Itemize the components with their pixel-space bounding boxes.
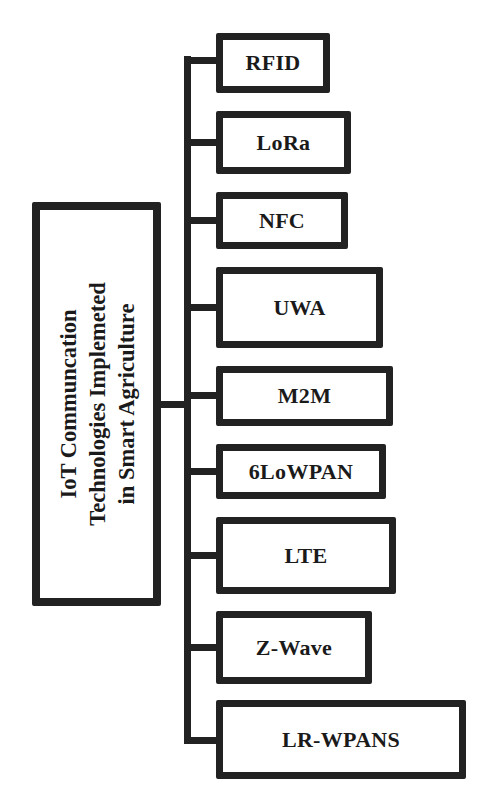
child-connector-line (184, 737, 220, 744)
child-connector-line (184, 468, 220, 475)
child-node-label: LR-WPANS (282, 727, 400, 753)
child-node-label: M2M (278, 383, 331, 409)
child-node-label: RFID (246, 50, 301, 76)
child-connector-line (184, 552, 220, 559)
child-node-6lowpan: 6LoWPAN (216, 444, 386, 499)
child-node-uwa: UWA (216, 267, 383, 348)
child-connector-line (184, 644, 220, 651)
root-node-box: IoT Communcation Technologies Implemeted… (32, 202, 161, 606)
child-connector-line (184, 139, 220, 146)
child-node-lr-wpans: LR-WPANS (216, 700, 466, 779)
child-connector-line (184, 304, 220, 311)
child-connector-line (184, 217, 220, 224)
child-node-label: NFC (259, 208, 305, 234)
child-node-label: LTE (285, 543, 328, 569)
child-node-label: LoRa (257, 130, 311, 156)
child-node-lora: LoRa (216, 111, 351, 174)
child-node-rfid: RFID (216, 33, 330, 93)
root-label-line-1: IoT Communcation (53, 209, 82, 599)
root-label-line-3: in Smart Agriculture (111, 209, 140, 599)
child-node-lte: LTE (216, 517, 396, 594)
child-node-label: 6LoWPAN (249, 459, 353, 485)
root-node-label: IoT Communcation Technologies Implemeted… (53, 209, 140, 599)
child-connector-line (184, 392, 220, 399)
child-node-nfc: NFC (216, 192, 348, 249)
spine-line (184, 56, 191, 744)
child-node-m2m: M2M (216, 366, 393, 426)
child-node-z-wave: Z-Wave (216, 611, 372, 684)
child-node-label: UWA (273, 295, 325, 321)
child-connector-line (184, 57, 220, 64)
root-label-line-2: Technologies Implemeted (82, 209, 111, 599)
child-node-label: Z-Wave (256, 635, 332, 661)
